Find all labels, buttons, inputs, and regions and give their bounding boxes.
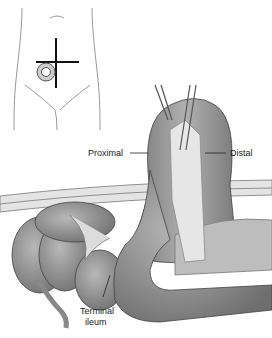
label-distal: Distal	[230, 148, 253, 158]
label-ileum: ileum	[85, 317, 107, 327]
label-proximal: Proximal	[88, 148, 123, 158]
exteriorized-loop	[114, 99, 272, 323]
illustration	[0, 0, 272, 338]
stoma-marker	[37, 63, 55, 81]
label-terminal: Terminal	[80, 306, 114, 316]
